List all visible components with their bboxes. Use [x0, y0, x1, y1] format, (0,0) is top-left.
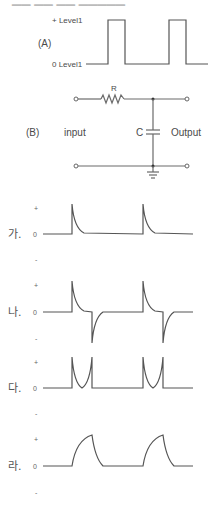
zero-tick: 0	[33, 309, 37, 316]
waveform-ra	[43, 435, 193, 466]
panel-b-label: (B)	[26, 127, 39, 138]
option-da-label: 다.	[8, 382, 22, 395]
capacitor-label: C	[136, 127, 143, 138]
waveform-da	[43, 357, 193, 388]
output-terminal-top	[185, 97, 189, 101]
zero-tick: 0	[33, 231, 37, 238]
option-ga: 가. + 0 -	[8, 204, 193, 263]
panel-a-square-wave: (A) + Level1 0 Level1	[38, 16, 208, 69]
minus-tick: -	[35, 410, 38, 417]
option-na-label: 나.	[8, 306, 22, 319]
plus-tick: +	[34, 436, 38, 443]
option-na: 나. + 0 -	[8, 281, 193, 343]
option-da: 다. + 0 -	[8, 357, 193, 417]
option-ra: 라. + 0 -	[8, 435, 193, 496]
square-wave	[86, 20, 208, 64]
input-terminal-top	[74, 97, 78, 101]
zero-tick: 0	[33, 385, 37, 392]
clipped-header-text: ▁▁ ▁▁ ▁▁ ▁▁▁▁▁	[11, 0, 126, 6]
plus-tick: +	[34, 282, 38, 289]
minus-tick: -	[35, 256, 38, 263]
waveform-ga	[43, 204, 193, 234]
plus-tick: +	[34, 359, 38, 366]
level-low-label: 0 Level1	[52, 60, 83, 69]
ground-icon	[147, 166, 159, 178]
minus-tick: -	[35, 489, 38, 496]
resistor-symbol	[101, 95, 124, 103]
input-label: input	[64, 127, 86, 138]
option-ra-label: 라.	[8, 460, 22, 473]
option-ga-label: 가.	[8, 228, 22, 241]
input-terminal-bottom	[74, 164, 78, 168]
rc-circuit-diagram: ▁▁ ▁▁ ▁▁ ▁▁▁▁▁ (A) + Level1 0 Level1 (B)…	[0, 0, 216, 506]
zero-tick: 0	[33, 463, 37, 470]
level-high-label: + Level1	[52, 16, 83, 25]
plus-tick: +	[34, 205, 38, 212]
panel-a-label: (A)	[38, 38, 51, 49]
output-terminal-bottom	[185, 164, 189, 168]
minus-tick: -	[35, 335, 38, 342]
output-label: Output	[171, 127, 201, 138]
waveform-na	[43, 281, 193, 343]
resistor-label: R	[111, 84, 117, 93]
panel-b-circuit: (B) input Output R C	[26, 84, 201, 178]
